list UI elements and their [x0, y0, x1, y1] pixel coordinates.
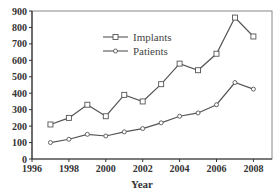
diamond-marker-icon [159, 121, 163, 125]
diamond-marker-icon [85, 132, 89, 136]
diamond-marker-icon [196, 111, 200, 115]
legend-item-patients: Patients [103, 45, 168, 57]
line-chart: 0100200300400500600700800900 19961998200… [0, 0, 278, 194]
square-marker-icon [66, 115, 71, 120]
x-tick-label: 2002 [133, 163, 153, 174]
legend-square-icon [113, 35, 118, 40]
diamond-marker-icon [67, 137, 71, 141]
square-marker-icon [232, 15, 237, 20]
x-tick-label: 1996 [22, 163, 42, 174]
square-marker-icon [251, 34, 256, 39]
x-tick-label: 2006 [207, 163, 227, 174]
x-tick-label: 1998 [59, 163, 79, 174]
legend-diamond-icon [114, 49, 118, 53]
y-tick-label: 300 [12, 104, 27, 115]
series-patients [48, 81, 255, 145]
x-axis: 1996199820002002200420062008 [22, 159, 263, 174]
y-tick-label: 900 [12, 6, 27, 17]
square-marker-icon [214, 51, 219, 56]
x-tick-label: 2008 [243, 163, 263, 174]
square-marker-icon [122, 92, 127, 97]
square-marker-icon [85, 102, 90, 107]
y-tick-label: 800 [12, 22, 27, 33]
diamond-marker-icon [178, 114, 182, 118]
square-marker-icon [196, 68, 201, 73]
y-tick-label: 100 [12, 137, 27, 148]
diamond-marker-icon [141, 127, 145, 131]
diamond-marker-icon [48, 141, 52, 145]
y-tick-label: 700 [12, 38, 27, 49]
x-tick-label: 2004 [170, 163, 190, 174]
y-tick-label: 500 [12, 71, 27, 82]
y-tick-label: 600 [12, 55, 27, 66]
legend-label: Patients [133, 45, 168, 57]
diamond-marker-icon [215, 103, 219, 107]
y-tick-label: 200 [12, 121, 27, 132]
diamond-marker-icon [122, 130, 126, 134]
square-marker-icon [48, 122, 53, 127]
square-marker-icon [103, 114, 108, 119]
square-marker-icon [177, 61, 182, 66]
diamond-marker-icon [251, 87, 255, 91]
y-tick-label: 400 [12, 88, 27, 99]
legend: ImplantsPatients [103, 31, 172, 57]
legend-item-implants: Implants [103, 31, 172, 43]
legend-label: Implants [133, 31, 172, 43]
y-axis: 0100200300400500600700800900 [12, 6, 32, 165]
x-tick-label: 2000 [96, 163, 116, 174]
diamond-marker-icon [104, 134, 108, 138]
diamond-marker-icon [233, 81, 237, 85]
x-axis-title: Year [131, 178, 153, 190]
square-marker-icon [140, 99, 145, 104]
square-marker-icon [159, 82, 164, 87]
